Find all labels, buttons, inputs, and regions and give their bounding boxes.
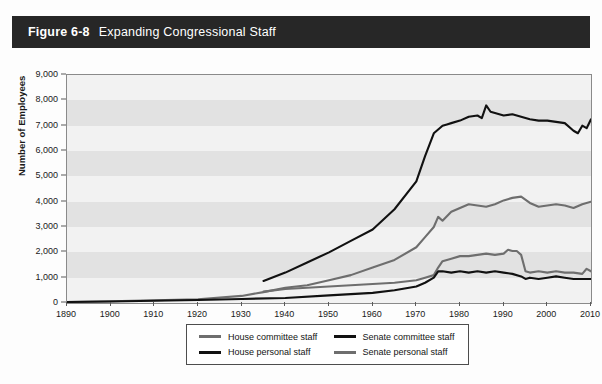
legend-label: House personal staff <box>228 347 310 357</box>
legend-item: House personal staff <box>193 345 328 361</box>
x-tick-mark <box>110 302 111 306</box>
x-tick-label: 1950 <box>318 309 338 319</box>
figure-number: Figure 6-8 <box>28 25 90 39</box>
legend-label: House committee staff <box>228 332 317 342</box>
x-tick-label: 2000 <box>536 309 556 319</box>
x-tick-label: 1970 <box>405 309 425 319</box>
y-tick-label: 6,000 <box>35 145 58 155</box>
legend-item: Senate personal staff <box>328 345 463 361</box>
legend-swatch <box>199 335 221 338</box>
legend-label: Senate committee staff <box>363 332 455 342</box>
x-tick-label: 1930 <box>231 309 251 319</box>
x-tick-label: 1920 <box>187 309 207 319</box>
legend-swatch <box>334 351 356 354</box>
x-tick-mark <box>590 302 591 306</box>
x-tick-mark <box>372 302 373 306</box>
legend-swatch <box>334 335 356 338</box>
x-tick-label: 1960 <box>362 309 382 319</box>
plot-area <box>66 74 592 304</box>
y-tick-label: 3,000 <box>35 221 58 231</box>
y-tick-label: 9,000 <box>35 69 58 79</box>
x-tick-label: 1990 <box>493 309 513 319</box>
series-line <box>264 250 592 292</box>
x-tick-label: 1980 <box>449 309 469 319</box>
figure-header-bar: Figure 6-8 Expanding Congressional Staff <box>12 16 590 48</box>
x-tick-label: 1940 <box>274 309 294 319</box>
legend-swatch <box>199 351 221 354</box>
figure-container: Figure 6-8 Expanding Congressional Staff… <box>0 0 602 384</box>
x-tick-label: 2010 <box>580 309 600 319</box>
y-tick-label: 4,000 <box>35 196 58 206</box>
chart: Number of Employees 01,0002,0003,0004,00… <box>0 56 602 384</box>
x-tick-label: 1900 <box>100 309 120 319</box>
x-tick-mark <box>546 302 547 306</box>
legend-item: Senate committee staff <box>328 329 463 345</box>
x-tick-mark <box>328 302 329 306</box>
y-axis-labels: 01,0002,0003,0004,0005,0006,0007,0008,00… <box>0 74 66 302</box>
y-tick-label: 7,000 <box>35 120 58 130</box>
legend-label: Senate personal staff <box>363 347 448 357</box>
x-tick-mark <box>503 302 504 306</box>
x-tick-mark <box>197 302 198 306</box>
x-tick-label: 1910 <box>143 309 163 319</box>
x-tick-label: 1890 <box>56 309 76 319</box>
chart-legend: House committee staffSenate committee st… <box>186 324 469 365</box>
x-tick-mark <box>415 302 416 306</box>
x-tick-mark <box>284 302 285 306</box>
y-tick-label: 8,000 <box>35 94 58 104</box>
x-tick-mark <box>459 302 460 306</box>
y-tick-label: 1,000 <box>35 272 58 282</box>
series-line <box>264 105 592 281</box>
y-tick-label: 0 <box>53 297 58 307</box>
x-axis-labels: 1890190019101920193019401950196019701980… <box>66 302 590 324</box>
x-tick-mark <box>153 302 154 306</box>
figure-title: Expanding Congressional Staff <box>99 25 276 39</box>
series-lines <box>67 75 591 303</box>
x-tick-mark <box>241 302 242 306</box>
x-tick-mark <box>66 302 67 306</box>
legend-item: House committee staff <box>193 329 328 345</box>
y-tick-label: 2,000 <box>35 246 58 256</box>
y-tick-label: 5,000 <box>35 170 58 180</box>
